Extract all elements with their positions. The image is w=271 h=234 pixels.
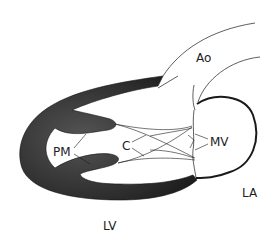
label-aorta: Ao xyxy=(196,52,211,64)
label-papillary-muscle: PM xyxy=(53,146,71,158)
aorta-valve-leaflet xyxy=(193,85,195,110)
label-mitral-valve: MV xyxy=(210,136,229,148)
aorta-upper-wall xyxy=(163,23,255,76)
label-left-atrium: LA xyxy=(242,187,257,199)
heart-diagram xyxy=(0,0,271,234)
lv-wall xyxy=(20,76,197,200)
label-left-ventricle: LV xyxy=(103,220,117,232)
label-chordae: C xyxy=(122,140,130,152)
mitral-annulus xyxy=(193,110,196,178)
